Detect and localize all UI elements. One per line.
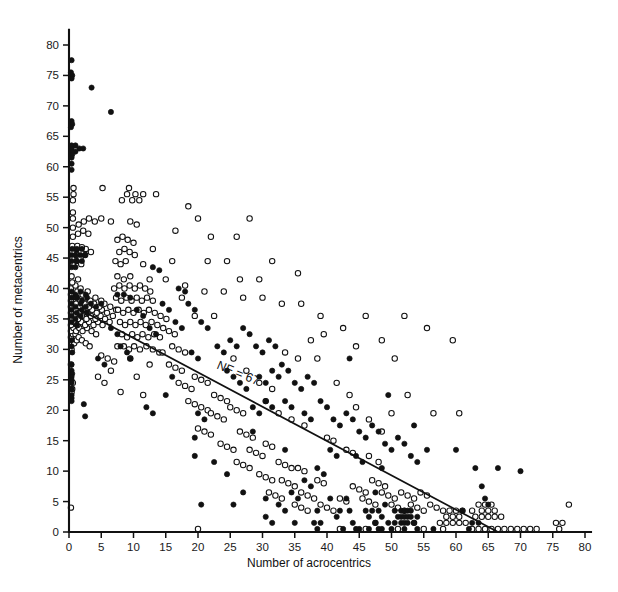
data-point (370, 423, 375, 428)
data-point (366, 499, 371, 504)
data-point (334, 380, 339, 385)
data-point (155, 322, 160, 327)
y-tick-label: 0 (53, 526, 59, 538)
data-point (402, 526, 407, 531)
data-point (382, 441, 387, 446)
x-tick-label: 65 (482, 541, 495, 553)
data-point (411, 423, 416, 428)
data-point (247, 216, 252, 221)
data-point (95, 374, 100, 379)
data-point (199, 405, 204, 410)
data-point (334, 453, 339, 458)
data-point (93, 331, 98, 336)
data-point (115, 332, 120, 337)
data-point (347, 356, 352, 361)
data-point (202, 417, 207, 422)
data-point (363, 313, 368, 318)
y-tick-label: 60 (46, 161, 59, 173)
data-point (146, 307, 151, 312)
data-point (270, 520, 275, 525)
data-point (282, 508, 287, 513)
data-point (195, 356, 200, 361)
data-point (115, 307, 120, 312)
data-point (392, 520, 397, 525)
data-point (121, 292, 126, 297)
data-point (263, 399, 268, 404)
data-point (466, 526, 471, 531)
data-point (202, 289, 207, 294)
data-point (292, 484, 297, 489)
data-point (340, 325, 345, 330)
data-point (134, 222, 139, 227)
data-point (102, 362, 107, 367)
data-point (170, 344, 175, 349)
data-point (250, 405, 255, 410)
data-point (123, 258, 128, 263)
data-point (479, 508, 484, 513)
data-point (224, 398, 229, 403)
data-point (179, 295, 184, 300)
data-point (389, 502, 394, 507)
data-point (457, 411, 462, 416)
data-point (315, 478, 320, 483)
data-point (134, 307, 139, 312)
data-point (305, 493, 310, 498)
data-point (366, 526, 371, 531)
data-point (86, 216, 91, 221)
data-point (189, 386, 194, 391)
data-point (269, 478, 274, 483)
data-point (398, 490, 403, 495)
data-point (302, 478, 307, 483)
data-point (295, 465, 300, 470)
data-point (534, 526, 539, 531)
data-point (158, 313, 163, 318)
data-point (115, 274, 120, 279)
data-point (253, 344, 258, 349)
data-point (144, 405, 149, 410)
data-point (75, 231, 80, 236)
data-point (315, 526, 320, 531)
data-point (557, 526, 562, 531)
data-point (237, 429, 242, 434)
data-point (147, 325, 152, 330)
data-point (127, 249, 132, 254)
data-point (502, 526, 507, 531)
data-point (337, 508, 342, 513)
data-point (392, 508, 397, 513)
data-point (81, 146, 86, 151)
data-point (273, 493, 278, 498)
data-point (126, 185, 131, 190)
data-point (150, 298, 155, 303)
data-point (93, 304, 98, 309)
data-point (86, 231, 91, 236)
data-point (179, 368, 184, 373)
data-point (189, 350, 194, 355)
data-point (176, 380, 181, 385)
data-point (234, 344, 239, 349)
data-point (257, 471, 262, 476)
data-point (102, 380, 107, 385)
data-point (240, 411, 245, 416)
x-tick-label: 15 (159, 541, 172, 553)
data-point (108, 304, 113, 309)
data-point (141, 313, 146, 318)
data-point (74, 295, 79, 300)
data-point (476, 502, 481, 507)
data-point (408, 508, 413, 513)
data-point (315, 465, 320, 470)
data-point (334, 514, 339, 519)
y-tick-label: 40 (46, 283, 59, 295)
data-point (87, 344, 92, 349)
data-point (350, 520, 355, 525)
data-point (428, 502, 433, 507)
data-point (192, 307, 197, 312)
data-point (95, 356, 100, 361)
data-point (182, 350, 187, 355)
data-point (224, 444, 229, 449)
data-point (108, 109, 113, 114)
data-point (392, 356, 397, 361)
data-point (183, 289, 188, 294)
data-point (172, 331, 177, 336)
data-point (234, 459, 239, 464)
data-point (318, 399, 323, 404)
